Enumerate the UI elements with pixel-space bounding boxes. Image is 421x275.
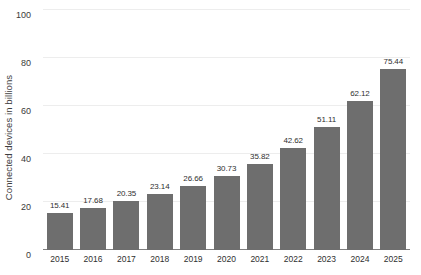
bar-group[interactable]: 26.66 bbox=[180, 170, 206, 250]
bar-value-label: 30.73 bbox=[217, 164, 237, 173]
bar-group[interactable]: 35.82 bbox=[247, 148, 273, 250]
bar-group[interactable]: 42.62 bbox=[280, 132, 306, 250]
bar-value-label: 26.66 bbox=[183, 174, 203, 183]
x-axis-tick-label: 2018 bbox=[143, 254, 176, 264]
bars: 15.4117.6820.3523.1426.6630.7335.8242.62… bbox=[43, 10, 410, 250]
bar[interactable] bbox=[113, 201, 139, 250]
x-axis-tick-labels: 2015201620172018201920202021202220232024… bbox=[43, 254, 410, 272]
bar-value-label: 23.14 bbox=[150, 182, 170, 191]
plot-area: 15.4117.6820.3523.1426.6630.7335.8242.62… bbox=[43, 10, 410, 250]
x-axis-tick-label: 2017 bbox=[110, 254, 143, 264]
bar[interactable] bbox=[180, 186, 206, 250]
bar-group[interactable]: 17.68 bbox=[80, 192, 106, 250]
x-axis-tick-label: 2020 bbox=[210, 254, 243, 264]
bar-value-label: 15.41 bbox=[50, 201, 70, 210]
bar-value-label: 35.82 bbox=[250, 152, 270, 161]
bar[interactable] bbox=[380, 69, 406, 250]
x-axis-tick-label: 2022 bbox=[277, 254, 310, 264]
x-axis-tick-label: 2025 bbox=[377, 254, 410, 264]
x-axis-tick-label: 2023 bbox=[310, 254, 343, 264]
bar-value-label: 75.44 bbox=[384, 57, 404, 66]
bar-group[interactable]: 75.44 bbox=[380, 53, 406, 250]
bar-group[interactable]: 15.41 bbox=[47, 197, 73, 250]
bar[interactable] bbox=[47, 213, 73, 250]
bar-value-label: 51.11 bbox=[317, 115, 336, 124]
bar[interactable] bbox=[280, 148, 306, 250]
bar-value-label: 62.12 bbox=[350, 89, 370, 98]
bar[interactable] bbox=[247, 164, 273, 250]
bar[interactable] bbox=[347, 101, 373, 250]
bar-group[interactable]: 62.12 bbox=[347, 85, 373, 250]
bar[interactable] bbox=[147, 194, 173, 250]
bar[interactable] bbox=[80, 208, 106, 250]
bar[interactable] bbox=[214, 176, 240, 250]
y-axis-tick-labels: 020406080100 bbox=[0, 10, 37, 250]
x-axis-tick-label: 2021 bbox=[243, 254, 276, 264]
x-axis-tick-label: 2015 bbox=[43, 254, 76, 264]
bar-value-label: 17.68 bbox=[83, 196, 103, 205]
bar-value-label: 42.62 bbox=[283, 136, 303, 145]
x-axis-tick-label: 2019 bbox=[176, 254, 209, 264]
bar-value-label: 20.35 bbox=[117, 189, 137, 198]
bar-group[interactable]: 23.14 bbox=[147, 178, 173, 250]
bar[interactable] bbox=[314, 127, 340, 250]
bar-group[interactable]: 30.73 bbox=[214, 160, 240, 250]
bar-group[interactable]: 20.35 bbox=[113, 185, 139, 250]
x-axis-tick-label: 2016 bbox=[76, 254, 109, 264]
bar-chart: Connected devices in billions 0204060801… bbox=[0, 0, 421, 275]
x-axis-tick-label: 2024 bbox=[343, 254, 376, 264]
bar-group[interactable]: 51.11 bbox=[314, 111, 340, 250]
